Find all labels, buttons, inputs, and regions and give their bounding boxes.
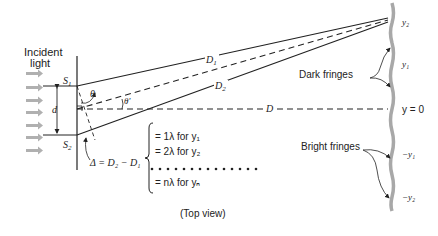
- y2-label: y₂: [401, 17, 409, 27]
- incident-label-2: light: [30, 57, 50, 69]
- theta-prime-label: θ': [124, 96, 131, 106]
- delta-label: Δ = D₂ − D₁: [89, 157, 141, 168]
- dark-fringes-label: Dark fringes: [299, 69, 353, 80]
- screen: [391, 3, 394, 211]
- incident-light-arrows: [26, 70, 43, 155]
- double-slit-diagram: Incident light S1 S2 d θ θ' D1 D2 D Δ = …: [0, 0, 438, 236]
- theta-label: θ: [90, 88, 95, 99]
- neg-y2-label: −y₂: [402, 192, 415, 202]
- top-view-caption: (Top view): [180, 208, 226, 219]
- dots-row: [151, 168, 258, 171]
- y0-label: y = 0: [402, 104, 424, 115]
- bright-fringes-label: Bright fringes: [301, 141, 360, 152]
- condition-1: = 1λ for y₁: [155, 131, 200, 142]
- condition-n: = nλ for yₙ: [155, 177, 200, 188]
- s2-label: S2: [63, 139, 72, 152]
- neg-y1-label: −y₁: [402, 149, 415, 159]
- condition-2: = 2λ for y₂: [155, 146, 200, 157]
- D-label: D: [265, 103, 274, 114]
- y1-label: y₁: [401, 59, 409, 69]
